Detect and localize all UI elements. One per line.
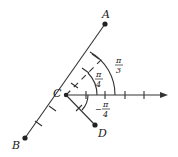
label-C: C <box>53 87 62 100</box>
svg-text:4: 4 <box>102 110 108 119</box>
arrowhead-icon <box>160 92 168 98</box>
tick-CB <box>49 106 56 111</box>
arc-neg-pi-4 <box>82 95 88 110</box>
line-CD <box>66 95 95 125</box>
tick-CB <box>35 121 42 126</box>
label-A: A <box>101 8 110 21</box>
svg-text:π: π <box>95 70 102 79</box>
point-B <box>22 135 27 140</box>
svg-text:3: 3 <box>116 66 121 75</box>
angle-label-neg-pi-4: − π 4 <box>95 100 110 119</box>
arc-pi-3 <box>90 52 115 95</box>
label-B: B <box>11 139 20 152</box>
angle-label-pi-4: π 4 <box>95 70 103 89</box>
svg-text:π: π <box>115 56 122 65</box>
label-D: D <box>97 127 107 140</box>
svg-text:π: π <box>102 100 109 109</box>
diagram-canvas: A B C D π 3 π 4 − π 4 <box>0 0 178 157</box>
point-C <box>64 93 68 97</box>
angle-label-pi-3: π 3 <box>115 56 123 75</box>
line-BA <box>25 24 105 138</box>
svg-text:4: 4 <box>95 80 101 89</box>
point-D <box>92 122 97 127</box>
svg-text:−: − <box>95 105 102 114</box>
point-A <box>102 21 107 26</box>
tick-CA <box>82 68 89 73</box>
